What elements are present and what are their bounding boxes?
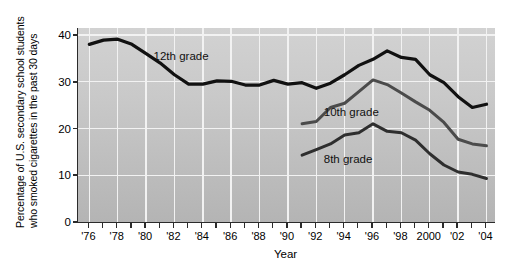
x-axis-tick-mark: [471, 223, 472, 228]
x-axis-tick-mark: [244, 223, 245, 228]
x-axis-tick-mark: [201, 223, 202, 228]
x-axis-tick-label: 2000: [417, 230, 441, 242]
series-line: [89, 39, 486, 107]
x-axis-tick-mark: [286, 223, 287, 228]
y-axis-tick-labels: 010203040: [40, 0, 71, 268]
x-axis-tick-mark: [300, 223, 301, 228]
plot-area: [77, 28, 495, 223]
x-axis-title: Year: [77, 248, 494, 260]
x-axis-tick-mark: [386, 223, 387, 228]
x-axis-tick-mark: [187, 223, 188, 228]
x-axis-tick-mark: [414, 223, 415, 228]
x-axis-tick-mark: [258, 223, 259, 228]
chart-figure: Percentage of U.S. secondary school stud…: [0, 0, 522, 268]
x-axis-tick-label: '78: [110, 230, 124, 242]
x-axis-tick-labels: '76'78'80'82'84'86'88'90'92'94'96'982000…: [77, 230, 494, 246]
x-axis-tick-label: '80: [138, 230, 152, 242]
x-axis-tick-mark: [215, 223, 216, 228]
x-axis-tick-mark: [130, 223, 131, 228]
x-axis-tick-mark: [173, 223, 174, 228]
y-axis-tick-label: 40: [40, 29, 71, 41]
x-axis-tick-mark: [371, 223, 372, 228]
x-axis-tick-label: '82: [166, 230, 180, 242]
series-label-8th-grade: 8th grade: [324, 153, 373, 165]
x-axis-tick-mark: [272, 223, 273, 228]
series-lines: [78, 28, 495, 222]
x-axis-tick-mark: [343, 223, 344, 228]
x-axis-tick-mark: [456, 223, 457, 228]
x-axis-tick-mark: [230, 223, 231, 228]
x-axis-tick-label: '94: [336, 230, 350, 242]
series-label-12th-grade: 12th grade: [154, 50, 209, 62]
y-axis-title: Percentage of U.S. secondary school stud…: [0, 0, 40, 240]
x-axis-ticks: [77, 223, 494, 229]
x-axis-tick-mark: [357, 223, 358, 228]
x-axis-tick-mark: [428, 223, 429, 228]
x-axis-tick-label: '84: [195, 230, 209, 242]
x-axis-tick-mark: [485, 223, 486, 228]
x-axis-tick-label: '88: [251, 230, 265, 242]
x-axis-tick-label: '86: [223, 230, 237, 242]
y-axis-tick-label: 20: [40, 123, 71, 135]
x-axis-tick-mark: [88, 223, 89, 228]
y-axis-tick-label: 0: [40, 216, 71, 228]
x-axis-tick-label: '02: [450, 230, 464, 242]
x-axis-tick-mark: [329, 223, 330, 228]
x-axis-tick-label: '04: [478, 230, 492, 242]
x-axis-tick-mark: [159, 223, 160, 228]
x-axis-tick-mark: [442, 223, 443, 228]
y-axis-title-line-2: who smoked cigarettes in the past 30 day…: [27, 34, 39, 228]
series-line: [302, 124, 486, 179]
x-axis-tick-label: '76: [81, 230, 95, 242]
x-axis-tick-mark: [102, 223, 103, 228]
x-axis-tick-label: '90: [280, 230, 294, 242]
x-axis-tick-label: '96: [365, 230, 379, 242]
x-axis-tick-mark: [144, 223, 145, 228]
y-axis-title-line-1: Percentage of U.S. secondary school stud…: [14, 16, 26, 228]
y-axis-tick-label: 30: [40, 76, 71, 88]
y-axis-tick-label: 10: [40, 169, 71, 181]
series-label-10th-grade: 10th grade: [324, 106, 379, 118]
x-axis-tick-label: '98: [393, 230, 407, 242]
x-axis-tick-mark: [400, 223, 401, 228]
x-axis-tick-mark: [116, 223, 117, 228]
x-axis-tick-label: '92: [308, 230, 322, 242]
x-axis-tick-mark: [315, 223, 316, 228]
